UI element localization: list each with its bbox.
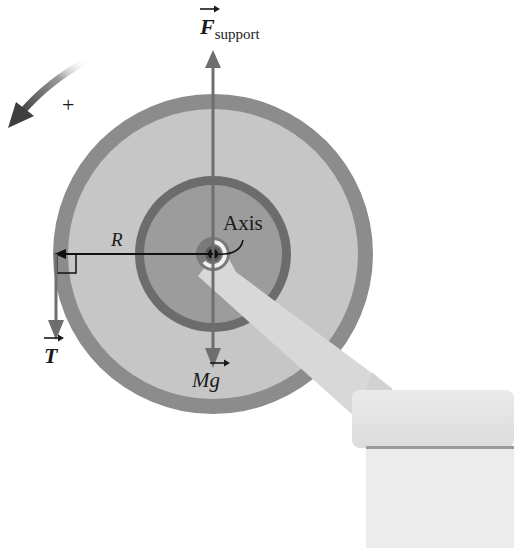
support-force-subscript: support — [215, 26, 260, 42]
support-table — [352, 390, 514, 548]
radius-label: R — [111, 229, 123, 251]
vector-arrow-icon — [44, 334, 64, 342]
vector-arrow-icon — [200, 5, 220, 13]
support-force-label: F support — [200, 14, 260, 40]
rotation-direction-arrow — [8, 60, 88, 128]
positive-rotation-sign: + — [62, 92, 74, 118]
tension-label: T — [44, 343, 57, 369]
vector-arrow-icon — [210, 359, 230, 367]
weight-mass-symbol: M — [192, 368, 210, 392]
tension-symbol: T — [44, 343, 57, 368]
axis-label: Axis — [223, 211, 263, 236]
weight-gravity-symbol: g — [210, 368, 221, 392]
torque-diagram — [0, 0, 518, 559]
weight-label: Mg — [192, 368, 220, 393]
support-force-symbol: F — [200, 14, 215, 39]
